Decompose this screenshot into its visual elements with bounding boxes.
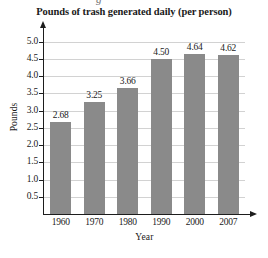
gridline [44, 197, 245, 198]
x-axis-tick-label: 1990 [144, 217, 178, 227]
y-axis-tick-mark [39, 59, 44, 60]
x-axis-tick-label: 1980 [111, 217, 145, 227]
gridline [44, 145, 245, 146]
y-axis-arrowhead [40, 21, 46, 28]
y-axis-tick-mark [39, 180, 44, 181]
bar [117, 88, 138, 214]
bar [151, 59, 172, 214]
y-axis-tick-mark [39, 145, 44, 146]
x-axis-arrowhead [250, 211, 257, 217]
bar-value-label: 4.64 [178, 42, 212, 52]
x-axis-tick-label: 2000 [178, 217, 212, 227]
bar-chart-figure: 5.04.54.03.53.02.52.01.51.00.5 Pounds Ye… [0, 0, 268, 258]
gridline [44, 93, 245, 94]
x-axis-tick-label: 1960 [44, 217, 78, 227]
y-axis-tick-label: 1.0 [4, 175, 38, 185]
bar-value-label: 4.62 [211, 43, 245, 53]
y-axis-tick-labels: 5.04.54.03.53.02.52.01.51.00.5 [0, 0, 38, 258]
bar-value-label: 3.66 [111, 76, 145, 86]
bar-value-label: 4.50 [144, 47, 178, 57]
bar-value-label: 2.68 [44, 110, 78, 120]
bar [50, 122, 71, 214]
y-axis-tick-mark [39, 162, 44, 163]
gridline [44, 128, 245, 129]
y-axis-tick-mark [39, 76, 44, 77]
y-axis-tick-mark [39, 42, 44, 43]
x-axis-title: Year [44, 232, 245, 242]
y-axis-tick-label: 4.5 [4, 54, 38, 64]
y-axis-line [43, 27, 44, 215]
bar [184, 54, 205, 214]
plot-area [44, 33, 245, 214]
y-axis-tick-mark [39, 197, 44, 198]
bar-value-label: 3.25 [77, 90, 111, 100]
y-axis-tick-label: 5.0 [4, 37, 38, 47]
y-axis-tick-mark [39, 128, 44, 129]
y-axis-title: Pounds [9, 89, 19, 145]
x-axis-tick-label: 2007 [211, 217, 245, 227]
y-axis-tick-label: 4.0 [4, 71, 38, 81]
bar [84, 102, 105, 214]
x-axis-tick-label: 1970 [77, 217, 111, 227]
bar [218, 55, 239, 214]
gridline [44, 162, 245, 163]
y-axis-tick-mark [39, 93, 44, 94]
y-axis-tick-label: 0.5 [4, 192, 38, 202]
x-axis-line [43, 214, 251, 215]
y-axis-tick-label: 1.5 [4, 157, 38, 167]
gridline [44, 59, 245, 60]
gridline [44, 180, 245, 181]
